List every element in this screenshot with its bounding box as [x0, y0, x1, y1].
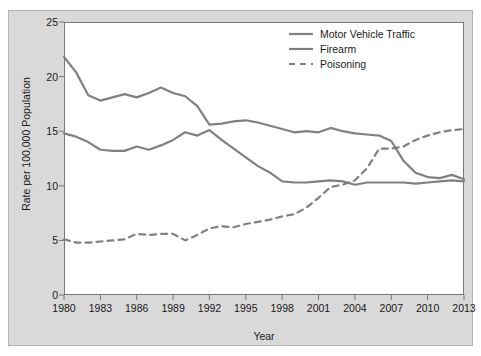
series-lines — [64, 57, 464, 243]
series-line-poisoning — [64, 129, 464, 243]
legend-item-firearm: Firearm — [288, 41, 463, 56]
legend-label-motor-vehicle-traffic: Motor Vehicle Traffic — [320, 28, 415, 40]
legend-swatch-solid-icon — [288, 28, 314, 40]
chart-legend: Motor Vehicle Traffic Firearm Poisoning — [288, 26, 463, 71]
legend-item-poisoning: Poisoning — [288, 56, 463, 71]
legend-swatch-solid-icon — [288, 43, 314, 55]
legend-item-motor-vehicle-traffic: Motor Vehicle Traffic — [288, 26, 463, 41]
legend-label-firearm: Firearm — [320, 43, 356, 55]
series-line-motor-vehicle-traffic — [64, 57, 464, 179]
series-line-firearm — [64, 130, 464, 185]
legend-swatch-dashed-icon — [288, 58, 314, 70]
chart-figure: 25 20 15 10 5 0 1980 1983 1986 1989 1992… — [0, 0, 481, 356]
legend-label-poisoning: Poisoning — [320, 58, 366, 70]
